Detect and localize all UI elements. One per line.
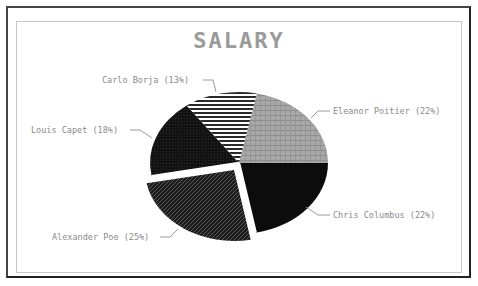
label-chris-columbus: Chris Columbus (22%) bbox=[333, 210, 435, 220]
slice-alexander-poe[interactable] bbox=[147, 170, 251, 241]
label-alexander-poe: Alexander Poe (25%) bbox=[52, 232, 149, 242]
label-eleanor-poitier: Eleanor Poitier (22%) bbox=[333, 106, 440, 116]
pie-chart: Carlo Borja (13%) Louis Capet (18%) Elea… bbox=[0, 0, 478, 286]
label-carlo-borja: Carlo Borja (13%) bbox=[102, 75, 189, 85]
label-louis-capet: Louis Capet (18%) bbox=[31, 125, 118, 135]
